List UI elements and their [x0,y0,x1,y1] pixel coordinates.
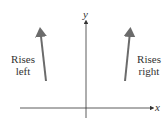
x-axis-label: x [155,101,160,113]
rises-right-line1: Rises [134,53,164,65]
rises-left-line2: left [8,65,38,77]
rises-left-label: Rises left [8,53,38,77]
rises-right-arrow [125,32,130,81]
y-axis-label: y [83,8,88,20]
rises-right-line2: right [134,65,164,77]
end-behavior-diagram: y x Rises left Rises right [0,0,168,121]
rises-right-label: Rises right [134,53,164,77]
rises-left-line1: Rises [8,53,38,65]
rises-left-arrow [41,32,47,81]
